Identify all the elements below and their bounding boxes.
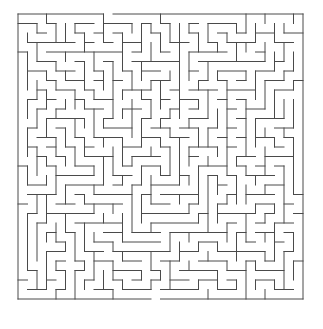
maze-svg [0, 0, 323, 329]
maze-figure [0, 0, 323, 329]
maze-page [0, 0, 323, 329]
